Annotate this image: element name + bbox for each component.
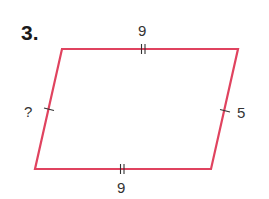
parallelogram-diagram	[0, 0, 269, 199]
parallelogram-shape	[35, 49, 238, 169]
top-side-label: 9	[138, 23, 146, 38]
problem-number: 3.	[21, 22, 39, 43]
right-side-label: 5	[237, 105, 245, 120]
left-side-label: ?	[24, 104, 32, 119]
parallelogram-figure: 3. 9 9 ? 5	[0, 0, 269, 199]
bottom-side-label: 9	[117, 180, 125, 195]
